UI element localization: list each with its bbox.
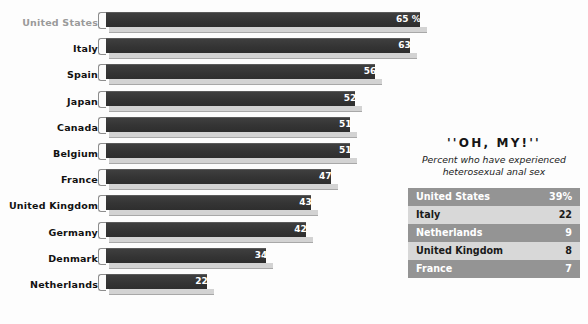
bar-shadow bbox=[109, 132, 357, 138]
bar-row: Germany42 bbox=[0, 221, 440, 247]
bar-fill bbox=[105, 143, 350, 158]
side-panel: ''OH, MY!'' Percent who have experienced… bbox=[408, 136, 580, 278]
table-cell-value: 22 bbox=[518, 206, 580, 224]
bar-fill bbox=[105, 222, 306, 237]
bar-label-belgium: Belgium bbox=[0, 148, 98, 159]
side-panel-subtitle-line-2: heterosexual anal sex bbox=[443, 166, 546, 177]
bar-label-united-states: United States bbox=[0, 17, 98, 28]
bar-value-label: 63 bbox=[398, 40, 411, 50]
table-cell-country: France bbox=[408, 260, 518, 278]
table-cell-value: 39% bbox=[518, 188, 580, 206]
bar: 51 bbox=[98, 117, 358, 141]
bar-row: Netherlands22 bbox=[0, 273, 440, 299]
bar-left-cap bbox=[98, 12, 106, 29]
bar-label-united-kingdom: United Kingdom bbox=[0, 200, 98, 211]
bar-label-france: France bbox=[0, 174, 98, 185]
bar: 52 bbox=[98, 91, 363, 115]
bar-value-label: 52 bbox=[344, 93, 357, 103]
bar-shadow bbox=[109, 237, 313, 243]
bar-label-netherlands: Netherlands bbox=[0, 279, 98, 290]
bar-value-label: 42 bbox=[294, 224, 307, 234]
bar-row: United Kingdom43 bbox=[0, 194, 440, 220]
bar-left-cap bbox=[98, 222, 106, 239]
bar-fill bbox=[105, 38, 410, 53]
bar-row: Belgium51 bbox=[0, 142, 440, 168]
bar-fill bbox=[105, 12, 420, 27]
side-panel-subtitle: Percent who have experienced heterosexua… bbox=[408, 154, 580, 179]
table-row: Italy22 bbox=[408, 206, 580, 224]
side-panel-title: ''OH, MY!'' bbox=[408, 136, 580, 150]
bar-left-cap bbox=[98, 91, 106, 108]
bar: 42 bbox=[98, 222, 314, 246]
bar: 51 bbox=[98, 143, 358, 167]
bar-fill bbox=[105, 91, 355, 106]
bar-shadow bbox=[109, 210, 318, 216]
bar-left-cap bbox=[98, 38, 106, 55]
table-row: Netherlands9 bbox=[408, 224, 580, 242]
table-row: United Kingdom8 bbox=[408, 242, 580, 260]
bar-fill bbox=[105, 274, 207, 289]
bar-left-cap bbox=[98, 143, 106, 160]
table-row: France7 bbox=[408, 260, 580, 278]
bar-row: Denmark34 bbox=[0, 247, 440, 273]
bar: 43 bbox=[98, 195, 319, 219]
bar-left-cap bbox=[98, 117, 106, 134]
bar-label-spain: Spain bbox=[0, 69, 98, 80]
stat-table: United States39%Italy22Netherlands9Unite… bbox=[408, 188, 580, 278]
bar-label-canada: Canada bbox=[0, 122, 98, 133]
bar-fill bbox=[105, 195, 311, 210]
bar-shadow bbox=[109, 79, 382, 85]
bar-label-denmark: Denmark bbox=[0, 253, 98, 264]
bar-shadow bbox=[109, 106, 362, 112]
bar-chart: United States65 %Italy63Spain56Japan52Ca… bbox=[0, 0, 440, 324]
table-cell-country: United Kingdom bbox=[408, 242, 518, 260]
table-row: United States39% bbox=[408, 188, 580, 206]
bar-value-label: 22 bbox=[195, 276, 208, 286]
bar-value-label: 47 bbox=[319, 171, 332, 181]
bar: 47 bbox=[98, 169, 339, 193]
bar-label-japan: Japan bbox=[0, 96, 98, 107]
bar-value-label: 34 bbox=[255, 250, 268, 260]
bar: 22 bbox=[98, 274, 215, 298]
bar-row: Italy63 bbox=[0, 37, 440, 63]
bar-shadow bbox=[109, 184, 338, 190]
bar-left-cap bbox=[98, 274, 106, 291]
bar: 63 bbox=[98, 38, 418, 62]
bar-value-label: 43 bbox=[299, 197, 312, 207]
bar-shadow bbox=[109, 263, 273, 269]
table-cell-value: 7 bbox=[518, 260, 580, 278]
bar-value-label: 56 bbox=[364, 66, 377, 76]
bar-left-cap bbox=[98, 64, 106, 81]
bar-value-label: 51 bbox=[339, 119, 352, 129]
bar: 34 bbox=[98, 248, 274, 272]
bar-shadow bbox=[109, 53, 417, 59]
bar-fill bbox=[105, 64, 375, 79]
bar-label-italy: Italy bbox=[0, 43, 98, 54]
bar-fill bbox=[105, 117, 350, 132]
bar-row: United States65 % bbox=[0, 11, 440, 37]
side-panel-subtitle-line-1: Percent who have experienced bbox=[422, 154, 566, 165]
bar-row: Spain56 bbox=[0, 63, 440, 89]
bar-shadow bbox=[109, 289, 214, 295]
table-cell-value: 8 bbox=[518, 242, 580, 260]
table-cell-country: Netherlands bbox=[408, 224, 518, 242]
bar-shadow bbox=[109, 27, 427, 33]
bar-fill bbox=[105, 248, 266, 263]
stat-table-body: United States39%Italy22Netherlands9Unite… bbox=[408, 188, 580, 278]
table-cell-value: 9 bbox=[518, 224, 580, 242]
bar-left-cap bbox=[98, 248, 106, 265]
table-cell-country: United States bbox=[408, 188, 518, 206]
bar-left-cap bbox=[98, 169, 106, 186]
bar-left-cap bbox=[98, 195, 106, 212]
bar: 65 % bbox=[98, 12, 428, 36]
bar: 56 bbox=[98, 64, 383, 88]
bar-row: Japan52 bbox=[0, 90, 440, 116]
bar-value-label: 65 % bbox=[396, 14, 421, 24]
bar-fill bbox=[105, 169, 331, 184]
bar-value-label: 51 bbox=[339, 145, 352, 155]
bar-label-germany: Germany bbox=[0, 227, 98, 238]
table-cell-country: Italy bbox=[408, 206, 518, 224]
bar-row: Canada51 bbox=[0, 116, 440, 142]
bar-shadow bbox=[109, 158, 357, 164]
bar-row: France47 bbox=[0, 168, 440, 194]
